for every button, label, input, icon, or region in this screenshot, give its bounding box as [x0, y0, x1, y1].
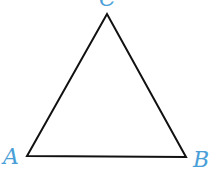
triangle-shape [0, 0, 218, 184]
vertex-label-a: A [3, 146, 19, 168]
vertex-label-c: C [99, 0, 116, 10]
triangle-abc [27, 14, 186, 157]
triangle-diagram: A B C [0, 0, 218, 184]
vertex-label-b: B [193, 149, 209, 171]
